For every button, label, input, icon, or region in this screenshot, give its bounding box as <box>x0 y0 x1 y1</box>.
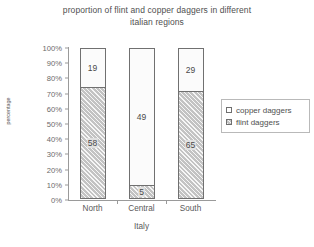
bar-south[interactable]: 2965 <box>178 48 204 200</box>
y-axis-tick-mark <box>65 154 69 155</box>
chart-legend: copper daggers flint daggers <box>221 99 310 133</box>
bar-value-flint-south: 65 <box>185 140 196 150</box>
y-axis-tick-mark <box>65 139 69 140</box>
bar-north[interactable]: 1958 <box>80 48 106 200</box>
legend-swatch-flint-icon <box>226 119 232 125</box>
x-axis-tick-label-south: South <box>180 204 201 213</box>
x-axis-tick-labels: NorthCentralSouth <box>68 204 215 218</box>
chart-title-line-2: italian regions <box>22 16 292 28</box>
y-axis-tick-mark <box>65 200 69 201</box>
legend-swatch-copper-icon <box>226 107 232 113</box>
y-axis-tick-mark <box>65 93 69 94</box>
chart-title-line-1: proportion of flint and copper daggers i… <box>63 5 251 15</box>
chart-title: proportion of flint and copper daggers i… <box>22 4 292 28</box>
chart-container: proportion of flint and copper daggers i… <box>0 0 314 247</box>
bar-segment-copper-central[interactable]: 49 <box>129 48 155 186</box>
x-axis-title: Italy <box>68 222 215 231</box>
y-axis-tick-mark <box>65 63 69 64</box>
bar-central[interactable]: 495 <box>129 48 155 200</box>
bar-value-copper-central: 49 <box>136 112 147 122</box>
bar-value-copper-north: 19 <box>87 63 98 73</box>
plot-area: 100%90%80%70%60%50%40%30%20%10%0%1958495… <box>68 48 215 200</box>
x-axis-line <box>68 200 216 201</box>
y-axis-tick-mark <box>65 108 69 109</box>
bar-segment-flint-central[interactable]: 5 <box>129 185 155 199</box>
bar-value-flint-central: 5 <box>138 187 145 197</box>
x-axis-tick-mark <box>117 200 118 204</box>
bar-segment-flint-south[interactable]: 65 <box>178 91 204 199</box>
y-axis-tick-mark <box>65 169 69 170</box>
bar-segment-flint-north[interactable]: 58 <box>80 87 106 199</box>
y-axis-tick-mark <box>65 184 69 185</box>
legend-label-copper: copper daggers <box>236 106 292 115</box>
legend-label-flint: flint daggers <box>236 118 280 127</box>
bar-value-copper-south: 29 <box>185 65 196 75</box>
x-axis-tick-mark <box>166 200 167 204</box>
bar-segment-copper-north[interactable]: 19 <box>80 48 106 88</box>
bar-value-flint-north: 58 <box>87 138 98 148</box>
bar-segment-copper-south[interactable]: 29 <box>178 48 204 92</box>
legend-item-flint[interactable]: flint daggers <box>226 116 306 128</box>
y-axis-tick-mark <box>65 124 69 125</box>
y-axis-tick-mark <box>65 48 69 49</box>
x-axis-tick-label-central: Central <box>128 204 154 213</box>
y-axis-tick-mark <box>65 78 69 79</box>
legend-item-copper[interactable]: copper daggers <box>226 104 306 116</box>
x-axis-tick-label-north: North <box>82 204 102 213</box>
y-axis-label: percentage <box>5 84 11 138</box>
